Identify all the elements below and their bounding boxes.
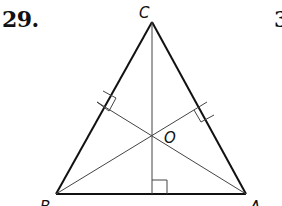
- side-ca: [152, 22, 246, 194]
- altitudes: [56, 22, 246, 194]
- altitude-from-b: [56, 102, 207, 194]
- altitude-from-a: [97, 102, 246, 194]
- vertex-label-c: C: [139, 4, 150, 22]
- vertex-label-b: B: [40, 198, 50, 206]
- right-angle-mark-base: [152, 180, 167, 194]
- orthocenter-label-o: O: [164, 129, 176, 147]
- side-bc: [56, 22, 152, 194]
- vertex-label-a: A: [249, 198, 260, 206]
- right-angle-marks: [97, 91, 214, 194]
- triangle-sides: [56, 22, 246, 194]
- triangle-figure: C B A O: [0, 0, 282, 206]
